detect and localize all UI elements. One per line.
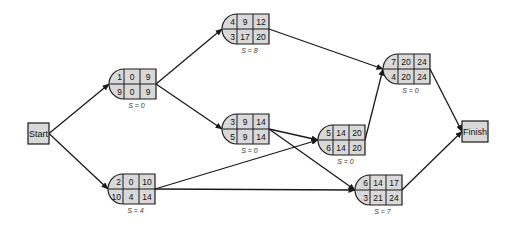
activity-node-n5: 5142061420S = 0	[318, 125, 365, 165]
nodes: 109909S = 0201010414S = 439145914S = 049…	[108, 14, 430, 215]
node-top-cell: 0	[130, 72, 135, 82]
node-bottom-cell: 20	[256, 32, 266, 42]
activity-node-n2: 201010414S = 4	[108, 174, 155, 214]
node-bottom-cell: 9	[243, 132, 248, 142]
start-label: Start	[29, 129, 49, 139]
node-bottom-cell: 4	[391, 72, 396, 82]
node-top-cell: 1	[117, 72, 122, 82]
node-bottom-cell: 24	[417, 72, 427, 82]
node-top-cell: 7	[391, 57, 396, 67]
node-top-cell: 24	[417, 57, 427, 67]
node-top-cell: 9	[146, 72, 151, 82]
slack-label: S = 0	[402, 87, 419, 94]
edge-start-n2	[49, 134, 108, 190]
start-node: Start	[28, 123, 49, 144]
edge-n1-n4	[156, 29, 222, 84]
node-top-cell: 10	[142, 177, 152, 187]
network-diagram: 109909S = 0201010414S = 439145914S = 049…	[0, 0, 514, 229]
edge-n4-n7	[269, 29, 383, 69]
slack-label: S = 0	[128, 102, 145, 109]
edge-n7-finish	[430, 69, 462, 132]
finish-node: Finish	[462, 121, 488, 142]
edge-n5-n7	[365, 69, 383, 140]
slack-label: S = 0	[337, 158, 354, 165]
activity-node-n3: 39145914S = 0	[222, 114, 269, 154]
activity-node-n7: 7202442024S = 0	[383, 54, 430, 94]
node-top-cell: 9	[243, 17, 248, 27]
node-bottom-cell: 4	[129, 192, 134, 202]
node-bottom-cell: 9	[117, 87, 122, 97]
activity-node-n1: 109909S = 0	[109, 69, 156, 109]
node-bottom-cell: 3	[230, 32, 235, 42]
node-top-cell: 2	[116, 177, 121, 187]
node-bottom-cell: 0	[130, 87, 135, 97]
node-top-cell: 20	[401, 57, 411, 67]
node-top-cell: 9	[243, 117, 248, 127]
slack-label: S = 0	[241, 147, 258, 154]
slack-label: S = 4	[127, 207, 144, 214]
node-top-cell: 14	[373, 178, 383, 188]
activity-node-n6: 6141732124S = 7	[355, 175, 402, 215]
node-bottom-cell: 17	[240, 32, 250, 42]
node-bottom-cell: 3	[363, 193, 368, 203]
node-bottom-cell: 9	[146, 87, 151, 97]
node-top-cell: 17	[389, 178, 399, 188]
node-top-cell: 12	[256, 17, 266, 27]
node-bottom-cell: 20	[401, 72, 411, 82]
node-bottom-cell: 21	[373, 193, 383, 203]
node-top-cell: 0	[129, 177, 134, 187]
node-bottom-cell: 14	[256, 132, 266, 142]
node-bottom-cell: 10	[112, 192, 122, 202]
node-top-cell: 3	[230, 117, 235, 127]
finish-label: Finish	[463, 127, 487, 137]
node-top-cell: 14	[336, 128, 346, 138]
edge-start-n1	[49, 84, 109, 134]
node-bottom-cell: 6	[326, 143, 331, 153]
node-top-cell: 20	[352, 128, 362, 138]
activity-node-n4: 491231720S = 8	[222, 14, 269, 54]
node-top-cell: 6	[363, 178, 368, 188]
edge-n1-n3	[156, 84, 222, 129]
edge-n6-finish	[402, 132, 462, 191]
node-bottom-cell: 5	[230, 132, 235, 142]
node-bottom-cell: 20	[352, 143, 362, 153]
slack-label: S = 7	[374, 208, 392, 215]
slack-label: S = 8	[241, 47, 258, 54]
node-bottom-cell: 24	[389, 193, 399, 203]
node-top-cell: 4	[230, 17, 235, 27]
node-top-cell: 14	[256, 117, 266, 127]
node-bottom-cell: 14	[336, 143, 346, 153]
edge-n2-n5	[155, 140, 318, 189]
node-bottom-cell: 14	[142, 192, 152, 202]
edge-n2-n6	[155, 189, 355, 190]
node-top-cell: 5	[326, 128, 331, 138]
